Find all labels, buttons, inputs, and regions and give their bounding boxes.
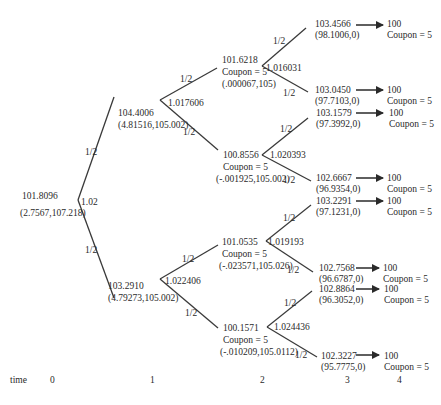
prob-label: 1/2: [182, 254, 194, 265]
prob-label: 1/2: [183, 127, 195, 138]
prob-label: 1/2: [283, 88, 295, 99]
node-t4-coupon: Coupon = 5: [384, 361, 429, 373]
node-t1-down-price: 103.2910: [108, 280, 144, 292]
node-t4-coupon: Coupon = 5: [389, 118, 434, 130]
node-t2-uu-pair: (.000067,105): [222, 78, 276, 90]
node-t4-coupon: Coupon = 5: [387, 29, 432, 41]
time-tick: 4: [397, 374, 402, 386]
node-t2-ud-pair: (-.001925,105.002): [216, 173, 290, 185]
time-tick: 3: [345, 374, 350, 386]
tree-edges: [0, 0, 441, 405]
prob-label: 1/2: [295, 350, 307, 361]
prob-label: 1/2: [273, 36, 285, 47]
prob-label: 1/2: [284, 298, 296, 309]
node-t1-down-rate: 1.022406: [165, 276, 201, 287]
prob-label: 1/2: [185, 308, 197, 319]
time-axis-label: time: [10, 374, 27, 386]
node-t2-uu-price: 101.6218: [222, 54, 258, 66]
node-t4-coupon: Coupon = 5: [387, 183, 432, 195]
node-t2-ud-price: 100.8556: [223, 149, 259, 161]
prob-label: 1/2: [280, 124, 292, 135]
prob-label: 1/2: [180, 74, 192, 85]
prob-label: 1/2: [85, 245, 97, 256]
node-t3-pair: (96.9354,0): [316, 183, 360, 195]
node-t2-du-rate: 1.019193: [268, 237, 304, 248]
node-t3-pair: (97.7103,0): [315, 95, 359, 107]
node-t3-pair: (97.1231,0): [316, 206, 360, 218]
prob-label: 1/2: [287, 265, 299, 276]
time-tick: 2: [260, 374, 265, 386]
node-t3-pair: (97.3992,0): [316, 118, 360, 130]
node-t3-pair: (96.3052,0): [319, 294, 363, 306]
node-t0-price: 101.8096: [22, 190, 58, 202]
node-t2-du-coupon: Coupon = 5: [222, 248, 267, 260]
prob-label: 1/2: [283, 175, 295, 186]
node-t0-pair: (2.7567,107.218): [20, 207, 86, 219]
node-t4-coupon: Coupon = 5: [384, 294, 429, 306]
node-t2-ud-rate: 1.020393: [270, 150, 306, 161]
time-tick: 1: [150, 374, 155, 386]
node-t4-coupon: Coupon = 5: [387, 95, 432, 107]
node-t1-up-rate: 1.017606: [168, 98, 204, 109]
node-t0-rate: 1.02: [81, 197, 98, 208]
node-t3-pair: (98.1006,0): [315, 29, 359, 41]
binomial-tree-diagram: 101.8096 (2.7567,107.218) 1.02 1/2 1/2 1…: [0, 0, 441, 405]
node-t4-coupon: Coupon = 5: [387, 206, 432, 218]
prob-label: 1/2: [283, 213, 295, 224]
node-t2-dd-pair: (-.010209,105.0112): [220, 346, 298, 358]
node-t3-pair: (95.7775,0): [321, 361, 365, 373]
node-t1-down-pair: (4.79273,105.002): [108, 292, 178, 304]
node-t2-ud-coupon: Coupon = 5: [223, 161, 268, 173]
time-tick: 0: [50, 374, 55, 386]
node-t1-up-price: 104.4006: [118, 107, 154, 119]
node-t2-dd-rate: 1.024436: [274, 322, 310, 333]
node-t2-du-pair: (-.023571,105.026): [219, 260, 293, 272]
node-t2-uu-rate: 1.016031: [266, 63, 302, 74]
node-t2-dd-coupon: Coupon = 5: [223, 334, 268, 346]
node-t2-dd-price: 100.1571: [223, 322, 259, 334]
prob-label: 1/2: [85, 147, 97, 158]
node-t2-du-price: 101.0535: [222, 236, 258, 248]
node-t2-uu-coupon: Coupon = 5: [222, 66, 267, 78]
node-t1-up-pair: (4.81516,105.002): [118, 119, 188, 131]
